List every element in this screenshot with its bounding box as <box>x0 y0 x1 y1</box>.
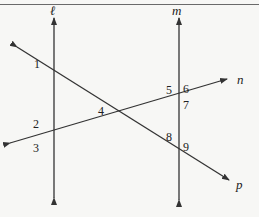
angle-label-8: 8 <box>166 130 172 144</box>
angle-label-5: 5 <box>166 83 172 97</box>
line-label-p: p <box>235 177 243 192</box>
line-p <box>17 47 229 180</box>
angle-label-2: 2 <box>33 117 39 131</box>
line-label-m: m <box>172 3 181 18</box>
angle-label-1: 1 <box>34 57 40 71</box>
parallel-lines-diagram: ℓ m n p 1 2 3 4 5 6 7 8 9 <box>0 0 259 217</box>
line-label-l: ℓ <box>50 3 56 18</box>
angle-label-7: 7 <box>183 98 189 112</box>
angle-label-6: 6 <box>183 82 189 96</box>
angle-label-9: 9 <box>183 140 189 154</box>
line-label-n: n <box>237 72 244 87</box>
angle-label-4: 4 <box>98 104 104 118</box>
angle-label-3: 3 <box>33 141 39 155</box>
